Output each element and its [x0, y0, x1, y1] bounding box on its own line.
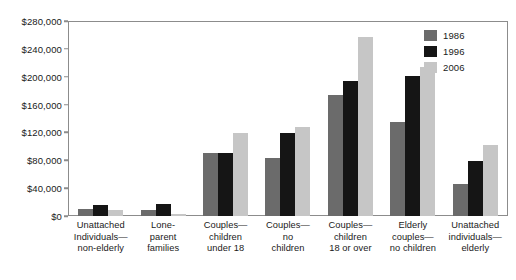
- bar-2006: [483, 145, 498, 215]
- bar-1996: [280, 133, 295, 215]
- bar-2006: [295, 127, 310, 215]
- bar-group: [194, 22, 256, 216]
- y-axis: $280,000$240,000$200,000$160,000$120,000…: [0, 21, 68, 216]
- bar-group: [70, 22, 132, 216]
- bar-group: [319, 22, 381, 216]
- bar-1986: [328, 95, 343, 216]
- bar-2006: [420, 67, 435, 216]
- y-axis-tick-label: $240,000: [22, 43, 62, 54]
- y-axis-tick-label: $160,000: [22, 99, 62, 110]
- bar-2006: [233, 133, 248, 215]
- legend-swatch-1996-icon: [424, 46, 437, 57]
- legend-swatch-2006-icon: [424, 62, 437, 73]
- y-axis-tick-label: $200,000: [22, 71, 62, 82]
- bar-1996: [218, 153, 233, 216]
- y-axis-tick-label: $280,000: [22, 16, 62, 27]
- bar-2006: [171, 214, 186, 215]
- bar-1986: [265, 158, 280, 215]
- bar-1986: [453, 184, 468, 215]
- legend-swatch-1986-icon: [424, 30, 437, 41]
- bar-group: [132, 22, 194, 216]
- bar-1986: [203, 153, 218, 215]
- bar-2006: [108, 210, 123, 216]
- bar-1996: [405, 76, 420, 216]
- legend-label-1996: 1996: [443, 46, 465, 57]
- legend-item-1986: 1986: [424, 28, 490, 42]
- bar-1996: [343, 81, 358, 216]
- legend-item-1996: 1996: [424, 44, 490, 58]
- legend-item-2006: 2006: [424, 60, 490, 74]
- legend-label-2006: 2006: [443, 62, 465, 73]
- y-axis-tick-label: $0: [51, 211, 62, 222]
- bar-1996: [468, 161, 483, 216]
- bar-1986: [390, 122, 405, 215]
- x-axis-category-label: Unattachedindividuals—elderly: [436, 220, 514, 255]
- y-axis-tick-label: $120,000: [22, 127, 62, 138]
- bar-2006: [358, 37, 373, 215]
- bar-1996: [156, 204, 171, 215]
- y-axis-tick-label: $40,000: [27, 183, 62, 194]
- bar-chart: $280,000$240,000$200,000$160,000$120,000…: [0, 0, 516, 280]
- bar-group: [257, 22, 319, 216]
- bar-1986: [78, 209, 93, 215]
- legend-label-1986: 1986: [443, 30, 465, 41]
- y-axis-tick-label: $80,000: [27, 155, 62, 166]
- bar-1986: [141, 210, 156, 216]
- chart-legend: 1986 1996 2006: [424, 28, 490, 76]
- bar-1996: [93, 205, 108, 215]
- x-axis-labels: UnattachedIndividuals—non-elderlyLone-pa…: [70, 220, 507, 278]
